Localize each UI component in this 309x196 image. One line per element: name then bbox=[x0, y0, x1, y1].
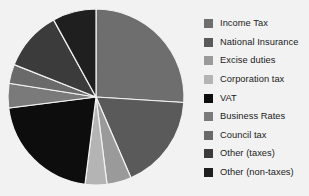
legend-swatch-icon bbox=[204, 168, 213, 177]
legend-item-other-non-taxes[interactable]: Other (non-taxes) bbox=[204, 163, 309, 182]
pie-chart-plot-area bbox=[0, 0, 196, 196]
pie-chart-svg bbox=[0, 0, 196, 196]
legend-item-corporation-tax[interactable]: Corporation tax bbox=[204, 70, 309, 89]
legend-item-label: Council tax bbox=[220, 130, 267, 141]
legend-swatch-icon bbox=[204, 131, 213, 140]
legend-item-business-rates[interactable]: Business Rates bbox=[204, 107, 309, 126]
chart-legend: Income Tax National Insurance Excise dut… bbox=[196, 0, 309, 196]
legend-swatch-icon bbox=[204, 56, 213, 65]
pie-chart-figure: Income Tax National Insurance Excise dut… bbox=[0, 0, 309, 196]
legend-item-label: Business Rates bbox=[220, 111, 285, 122]
legend-swatch-icon bbox=[204, 38, 213, 47]
pie-slice[interactable] bbox=[96, 9, 184, 103]
legend-item-other-taxes[interactable]: Other (taxes) bbox=[204, 144, 309, 163]
legend-swatch-icon bbox=[204, 75, 213, 84]
legend-item-vat[interactable]: VAT bbox=[204, 89, 309, 108]
pie-slice[interactable] bbox=[9, 97, 96, 184]
legend-item-label: National Insurance bbox=[220, 37, 298, 48]
pie-slice-group bbox=[8, 9, 184, 185]
legend-item-label: VAT bbox=[220, 93, 237, 104]
legend-swatch-icon bbox=[204, 149, 213, 158]
legend-item-national-insurance[interactable]: National Insurance bbox=[204, 33, 309, 52]
legend-item-label: Income Tax bbox=[220, 18, 268, 29]
legend-item-council-tax[interactable]: Council tax bbox=[204, 126, 309, 145]
legend-item-label: Other (non-taxes) bbox=[220, 167, 294, 178]
legend-swatch-icon bbox=[204, 112, 213, 121]
legend-item-label: Excise duties bbox=[220, 55, 275, 66]
legend-item-excise-duties[interactable]: Excise duties bbox=[204, 52, 309, 71]
legend-item-label: Other (taxes) bbox=[220, 148, 275, 159]
legend-item-income-tax[interactable]: Income Tax bbox=[204, 14, 309, 33]
legend-swatch-icon bbox=[204, 94, 213, 103]
legend-swatch-icon bbox=[204, 19, 213, 28]
legend-item-label: Corporation tax bbox=[220, 74, 284, 85]
